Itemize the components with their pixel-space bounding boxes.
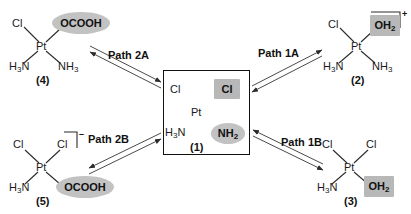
charge-plus-structure-2: + — [402, 10, 407, 19]
metal-center-3: Pt — [344, 162, 354, 173]
path-label-1a: Path 1A — [258, 48, 299, 59]
path-label-2b: Path 2B — [88, 134, 129, 145]
ligand-ocooh-highlight-5-label: OCOOH — [64, 182, 106, 193]
ligand-cl-highlight-1: Cl — [214, 79, 240, 99]
metal-center-5: Pt — [36, 162, 46, 173]
charge-minus-structure-5: – — [79, 130, 84, 139]
ligand-cl-upper-left-3: Cl — [322, 139, 332, 150]
ligand-cl-upper-left-1: Cl — [170, 84, 180, 95]
ligand-cl-upper-right-5: Cl — [57, 139, 67, 150]
ligand-cl-highlight-1-label: Cl — [222, 84, 233, 95]
structure-5-label: (5) — [36, 196, 49, 207]
ligand-h3n-lower-left-1: H3N — [165, 127, 185, 138]
ligand-nh3-lower-right-4: NH3 — [58, 61, 78, 72]
ligand-cl-upper-left-2: Cl — [328, 19, 338, 30]
path-label-2a: Path 2A — [108, 50, 149, 61]
ligand-h3n-lower-left-5: H3N — [9, 182, 29, 193]
ligand-cl-upper-left-5: Cl — [13, 139, 23, 150]
ligand-h3n-lower-left-3: H3N — [317, 182, 337, 193]
ligand-h3n-lower-left-2: H3N — [323, 61, 343, 72]
metal-center-4: Pt — [36, 41, 46, 52]
structure-3-label: (3) — [344, 196, 357, 207]
ligand-ocooh-highlight-4: OCOOH — [52, 12, 110, 34]
ligand-cl-upper-right-3: Cl — [366, 139, 376, 150]
metal-center-2: Pt — [351, 41, 361, 52]
ligand-ocooh-highlight-4-label: OCOOH — [60, 18, 102, 29]
ligand-nh2-highlight-1: NH2 — [211, 123, 245, 144]
ligand-nh3-lower-right-2: NH3 — [372, 61, 392, 72]
ligand-oh2-highlight-3: OH2 — [364, 176, 394, 197]
structure-2-label: (2) — [351, 75, 364, 86]
structure-1-label: (1) — [190, 142, 203, 153]
ligand-oh2-highlight-2-label: OH2 — [375, 20, 396, 31]
ligand-ocooh-highlight-5: OCOOH — [56, 176, 114, 198]
metal-center-1: Pt — [191, 107, 201, 118]
ligand-oh2-highlight-2: OH2 — [370, 15, 400, 36]
ligand-cl-upper-left-4: Cl — [12, 18, 22, 29]
ligand-h3n-lower-left-4: H3N — [9, 61, 29, 72]
path-label-1b: Path 1B — [281, 137, 322, 148]
ligand-oh2-highlight-3-label: OH2 — [369, 181, 390, 192]
ligand-nh2-highlight-1-label: NH2 — [218, 128, 238, 139]
structure-4-label: (4) — [36, 75, 49, 86]
